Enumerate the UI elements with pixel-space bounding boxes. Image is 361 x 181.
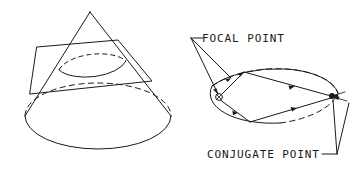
focal-point-label: FOCAL POINT: [202, 32, 285, 45]
cone-apex: [89, 11, 90, 12]
focal-point-marker: [216, 94, 223, 101]
conic-section-figure: FOCAL POINT CONJUGATE POINT: [0, 0, 361, 181]
conjugate-point-marker: [329, 93, 335, 99]
conjugate-point-label: CONJUGATE POINT: [207, 148, 320, 161]
figure-root: FOCAL POINT CONJUGATE POINT: [0, 0, 361, 181]
